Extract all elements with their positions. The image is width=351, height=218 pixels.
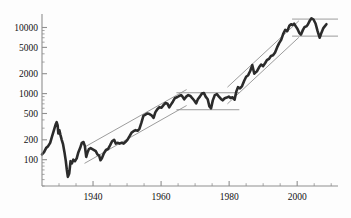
y-tick-label: 200 — [24, 135, 39, 145]
x-tick-label: 1960 — [152, 192, 171, 202]
x-tick-label: 1980 — [220, 192, 239, 202]
trend-channel-line — [85, 90, 187, 148]
data-series-line — [42, 18, 326, 177]
y-tick-label: 10000 — [14, 23, 38, 33]
channel-lines — [85, 19, 338, 163]
y-tick-label: 1000 — [19, 89, 38, 99]
y-tick-label: 5000 — [19, 43, 38, 53]
axis-tick-labels: 1002005001000200050001000019401960198020… — [14, 23, 307, 202]
chart-axes — [42, 14, 338, 186]
stock-index-log-chart: 1002005001000200050001000019401960198020… — [0, 0, 351, 218]
index-price-line — [42, 18, 326, 177]
x-tick-label: 1940 — [84, 192, 103, 202]
y-tick-label: 100 — [24, 155, 39, 165]
trend-channel-line — [227, 37, 298, 104]
x-tick-label: 2000 — [288, 192, 307, 202]
y-tick-label: 2000 — [19, 69, 38, 79]
y-tick-label: 500 — [24, 109, 39, 119]
chart-container: 1002005001000200050001000019401960198020… — [0, 0, 351, 218]
